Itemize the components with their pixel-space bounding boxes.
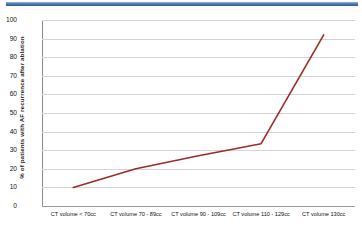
y-tick-label: 80 [0, 54, 17, 61]
y-axis-title: % of patients with AF recurrence after a… [18, 18, 25, 198]
x-category-label: CT volume 110 - 129cc [232, 211, 289, 217]
y-tick-label: 30 [0, 147, 17, 154]
y-tick-label: 20 [0, 165, 17, 172]
line-chart: % of patients with AF recurrence after a… [0, 8, 362, 237]
data-series-line [42, 20, 355, 206]
y-tick-label: 60 [0, 91, 17, 98]
x-category-label: CT volume 70 - 89cc [110, 211, 162, 217]
top-decorative-bar [6, 2, 358, 6]
x-category-label: CT volume < 70cc [51, 211, 96, 217]
y-tick-label: 10 [0, 184, 17, 191]
y-tick-label: 50 [0, 109, 17, 116]
y-tick-label: 40 [0, 128, 17, 135]
y-tick-label: 0 [0, 202, 17, 209]
chart-page: % of patients with AF recurrence after a… [0, 0, 362, 237]
y-tick-label: 90 [0, 35, 17, 42]
x-category-label: CT volume 130cc [302, 211, 345, 217]
y-tick-label: 70 [0, 72, 17, 79]
y-tick-label: 100 [0, 16, 17, 23]
x-axis-category-labels: CT volume < 70ccCT volume 70 - 89ccCT vo… [42, 211, 355, 225]
plot-area [42, 20, 355, 206]
x-category-label: CT volume 90 - 109cc [171, 211, 226, 217]
gridline [42, 206, 355, 207]
